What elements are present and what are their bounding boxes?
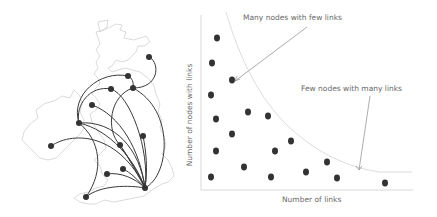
network-diagram: Many nodes with few links Few nodes with…: [0, 0, 437, 217]
map-outline: [22, 20, 174, 204]
chart-points: [208, 35, 388, 187]
chart-axes: [201, 15, 413, 190]
y-axis-label: Number of nodes with links: [185, 64, 194, 167]
map-nodes: [48, 54, 152, 200]
annotation-arrows: [235, 27, 370, 170]
annotation-few-nodes: Few nodes with many links: [301, 84, 402, 93]
x-axis-label: Number of links: [282, 195, 341, 204]
annotation-many-nodes: Many nodes with few links: [243, 13, 342, 22]
